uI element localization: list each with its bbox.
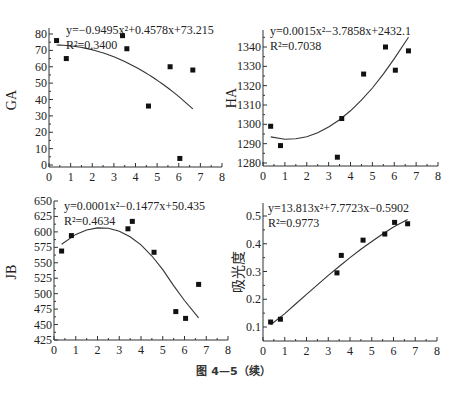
data-point	[196, 282, 201, 287]
data-point	[183, 316, 188, 321]
x-tick-label: 2	[89, 170, 95, 184]
x-tick-label: 4	[133, 170, 139, 184]
x-tick-label: 1	[68, 170, 74, 184]
fit-curve	[62, 228, 199, 318]
x-tick-label: 5	[154, 170, 160, 184]
y-tick-label: 1310	[237, 98, 261, 112]
data-point	[268, 124, 273, 129]
y-tick-label: 30	[35, 109, 47, 123]
x-tick-label: 3	[116, 343, 122, 357]
y-tick-label: 1320	[237, 79, 261, 93]
y-tick-label: 0.4	[246, 237, 261, 251]
data-point	[334, 270, 339, 275]
x-tick-label: 4	[348, 169, 354, 183]
x-tick-label: 7	[197, 170, 203, 184]
y-axis-title: GA	[4, 89, 19, 110]
x-tick-label: 6	[176, 170, 182, 184]
r-squared: R²=0.9773	[268, 216, 319, 230]
x-tick-label: 0	[260, 344, 266, 358]
x-tick-label: 7	[203, 343, 209, 357]
x-tick-label: 3	[325, 344, 331, 358]
y-tick-label: 0.2	[246, 292, 261, 306]
data-point	[339, 116, 344, 121]
data-point	[383, 45, 388, 50]
x-tick-label: 8	[219, 170, 225, 184]
data-point	[392, 220, 397, 225]
data-point	[339, 253, 344, 258]
data-point	[125, 226, 130, 231]
regression-equation: y=0.0001x²−0.1477x+50.435	[64, 199, 205, 213]
data-point	[54, 38, 59, 43]
x-tick-label: 6	[182, 343, 188, 357]
x-tick-label: 6	[391, 344, 397, 358]
y-tick-label: 1300	[237, 117, 261, 131]
y-tick-label: 550	[34, 256, 52, 270]
x-tick-label: 8	[434, 344, 440, 358]
x-tick-label: 0	[46, 170, 52, 184]
data-point	[405, 221, 410, 226]
data-point	[69, 233, 74, 238]
y-axis-title: JB	[4, 265, 19, 280]
y-tick-label: 600	[34, 225, 52, 239]
y-tick-label: 525	[34, 271, 52, 285]
x-tick-label: 0	[260, 169, 266, 183]
y-axis-title: HA	[224, 87, 239, 108]
panel-jb: 012345678425450475500525550575600625650J…	[4, 194, 231, 357]
figure-caption: 图 4—5（续）	[0, 362, 467, 378]
y-tick-label: 50	[35, 76, 47, 90]
data-point	[190, 68, 195, 73]
data-point	[124, 46, 129, 51]
y-tick-label: 1340	[237, 40, 261, 54]
y-tick-label: 0.3	[246, 265, 261, 279]
x-tick-label: 2	[304, 169, 310, 183]
x-tick-label: 7	[412, 344, 418, 358]
x-tick-label: 7	[413, 169, 419, 183]
x-tick-label: 1	[73, 343, 79, 357]
y-tick-label: 80	[35, 27, 47, 41]
fit-curve	[57, 45, 193, 109]
y-tick-label: 625	[34, 209, 52, 223]
x-tick-label: 4	[347, 344, 353, 358]
data-point	[59, 249, 64, 254]
y-tick-label: 0.5	[246, 209, 261, 223]
x-tick-label: 3	[111, 170, 117, 184]
x-tick-label: 1	[282, 344, 288, 358]
data-point	[382, 232, 387, 237]
y-tick-label: 40	[35, 93, 47, 107]
data-point	[393, 68, 398, 73]
data-point	[268, 320, 273, 325]
y-tick-label: 1280	[237, 156, 261, 170]
chart-figure: 01234567801020304050607080GAy=−0.9495x²+…	[0, 0, 467, 401]
x-tick-label: 8	[435, 169, 441, 183]
data-point	[130, 219, 135, 224]
x-tick-label: 3	[326, 169, 332, 183]
y-tick-label: 500	[34, 287, 52, 301]
x-tick-label: 2	[304, 344, 310, 358]
x-tick-label: 4	[138, 343, 144, 357]
data-point	[361, 72, 366, 77]
regression-equation: y=13.813x²+7.7723x−0.5902	[268, 201, 409, 215]
y-tick-label: 0.1	[246, 320, 261, 334]
y-tick-label: 20	[35, 125, 47, 139]
y-tick-label: 1330	[237, 59, 261, 73]
data-point	[173, 309, 178, 314]
y-tick-label: 650	[34, 194, 52, 208]
data-point	[361, 238, 366, 243]
x-tick-label: 5	[369, 344, 375, 358]
data-point	[406, 48, 411, 53]
panel-ha: 0123456781280129013001310132013301340HAy…	[224, 24, 441, 183]
data-point	[152, 250, 157, 255]
x-tick-label: 5	[160, 343, 166, 357]
x-tick-label: 1	[282, 169, 288, 183]
x-tick-label: 2	[95, 343, 101, 357]
panel-ga: 01234567801020304050607080GAy=−0.9495x²+…	[4, 23, 225, 184]
regression-equation: y=0.0015x²−3.7858x+2432.1	[270, 24, 411, 38]
y-tick-label: 450	[34, 318, 52, 332]
data-point	[146, 104, 151, 109]
r-squared: R²=0.3400	[66, 38, 117, 52]
r-squared: R²=0.4634	[64, 214, 115, 228]
panel-absorbance: 0123456780.10.20.30.40.5吸光度y=13.813x²+7.…	[231, 201, 440, 358]
y-tick-label: 70	[35, 43, 47, 57]
data-point	[64, 56, 69, 61]
regression-equation: y=−0.9495x²+0.4578x+73.215	[66, 23, 214, 37]
